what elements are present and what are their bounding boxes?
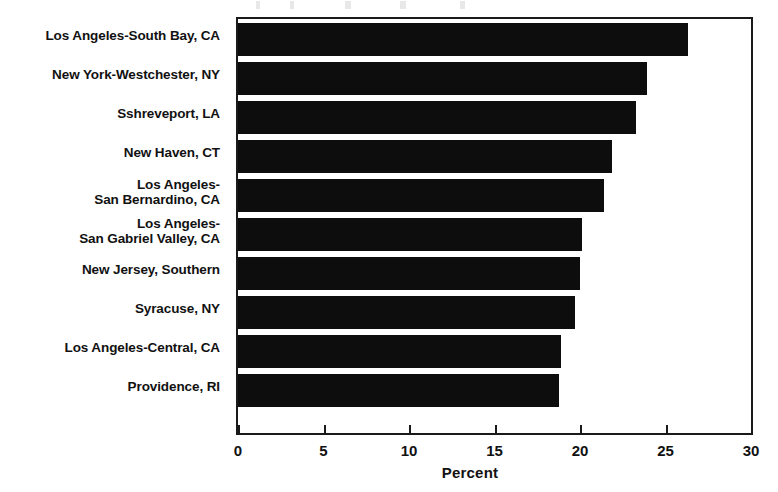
category-label: New Jersey, Southern [0, 263, 220, 278]
x-tick [324, 425, 326, 434]
category-label: Providence, RI [0, 380, 220, 395]
category-label: Los Angeles-South Bay, CA [0, 29, 220, 44]
bar [238, 140, 612, 173]
bar [238, 62, 647, 95]
category-label: New Haven, CT [0, 146, 220, 161]
x-tick [409, 425, 411, 434]
bar [238, 23, 688, 56]
bar [238, 335, 561, 368]
x-tick [751, 425, 753, 434]
x-tick-label: 20 [572, 442, 589, 459]
x-tick [580, 425, 582, 434]
x-tick-label: 10 [401, 442, 418, 459]
category-label: Los Angeles- San Bernardino, CA [0, 178, 220, 207]
category-label: New York-Westchester, NY [0, 68, 220, 83]
bar-chart: Los Angeles-South Bay, CA New York-Westc… [0, 0, 778, 492]
x-tick-label: 5 [319, 442, 327, 459]
category-label: Syracuse, NY [0, 302, 220, 317]
category-label: Los Angeles- San Gabriel Valley, CA [0, 217, 220, 246]
x-tick [495, 425, 497, 434]
bar [238, 218, 582, 251]
x-tick-label: 15 [486, 442, 503, 459]
bar [238, 374, 559, 407]
category-label: Sshreveport, LA [0, 107, 220, 122]
bar [238, 179, 604, 212]
bar [238, 257, 580, 290]
x-tick [238, 425, 240, 434]
x-tick-label: 30 [743, 442, 760, 459]
category-label: Los Angeles-Central, CA [0, 341, 220, 356]
bar [238, 296, 575, 329]
x-tick-label: 0 [234, 442, 242, 459]
category-axis-labels: Los Angeles-South Bay, CA New York-Westc… [0, 23, 228, 413]
cropped-title-artifact [250, 1, 550, 9]
x-tick [666, 425, 668, 434]
x-axis-title: Percent [442, 464, 498, 481]
bar [238, 101, 636, 134]
x-tick-label: 25 [657, 442, 674, 459]
plot-area [236, 17, 754, 436]
